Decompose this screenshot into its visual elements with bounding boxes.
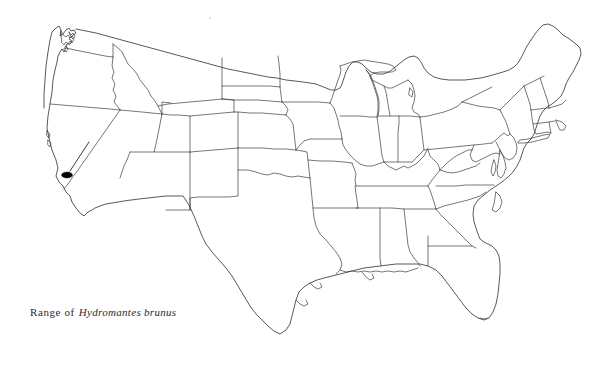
great-lakes-shoreline	[340, 60, 492, 117]
state-borders-northeast	[380, 76, 566, 266]
caption-species-name: Hydromantes brunus	[79, 306, 177, 318]
state-borders-west	[50, 44, 238, 210]
figure-caption: Range ofHydromantes brunus	[30, 306, 176, 318]
national-border	[44, 24, 581, 334]
caption-prefix: Range of	[30, 306, 75, 318]
state-borders-midwest	[282, 66, 440, 209]
range-map-figure: Range ofHydromantes brunus	[0, 0, 609, 366]
state-borders-plains	[222, 56, 342, 274]
coastline-detail	[296, 150, 506, 319]
range-leader-line	[70, 142, 89, 171]
range-marker-ellipse	[62, 172, 73, 178]
scan-speck-artifact	[209, 17, 211, 19]
